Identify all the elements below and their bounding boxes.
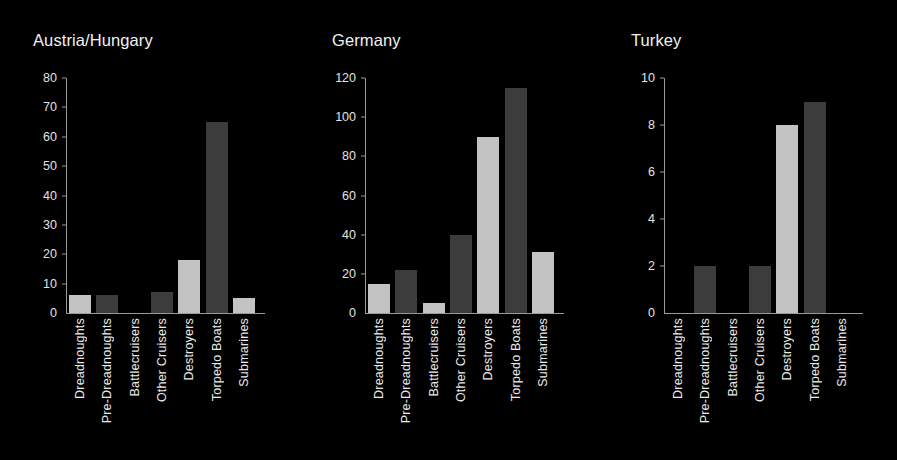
x-axis-tick-label: Battlecruisers: [726, 318, 740, 397]
x-axis-label-slot: Battlecruisers: [420, 318, 447, 446]
x-axis-tick-label: Submarines: [536, 318, 550, 387]
x-axis-tick-label: Battlecruisers: [427, 318, 441, 397]
x-axis-label-slot: Submarines: [530, 318, 557, 446]
x-axis-tick-label: Pre-Dreadnoughts: [698, 318, 712, 423]
x-axis-label-slot: Other Cruisers: [447, 318, 474, 446]
y-axis-tick-label: 0: [349, 306, 365, 320]
bar-series: [365, 78, 557, 313]
x-axis-label-slot: Dreadnoughts: [664, 318, 691, 446]
chart-panel-germany: Germany020406080100120DreadnoughtsPre-Dr…: [299, 0, 598, 460]
plot-area: 020406080100120: [365, 78, 557, 313]
x-axis-label-slot: Dreadnoughts: [66, 318, 93, 446]
x-axis-labels: DreadnoughtsPre-DreadnoughtsBattlecruise…: [365, 316, 557, 446]
x-axis-tick-label: Submarines: [835, 318, 849, 387]
x-axis-tick-label: Torpedo Boats: [808, 318, 822, 401]
x-axis-label-slot: Torpedo Boats: [801, 318, 828, 446]
x-axis-line: [66, 313, 265, 314]
x-axis-tick-label: Pre-Dreadnoughts: [399, 318, 413, 423]
x-axis-labels: DreadnoughtsPre-DreadnoughtsBattlecruise…: [664, 316, 856, 446]
x-axis-line: [664, 313, 863, 314]
bar: [69, 295, 91, 313]
x-axis-tick-label: Destroyers: [481, 318, 495, 380]
x-axis-tick-label: Pre-Dreadnoughts: [100, 318, 114, 423]
bar: [532, 252, 554, 313]
plot-area: 01020304050607080: [66, 78, 258, 313]
x-axis-label-slot: Pre-Dreadnoughts: [691, 318, 718, 446]
x-axis-tick-label: Dreadnoughts: [372, 318, 386, 399]
x-axis-label-slot: Other Cruisers: [148, 318, 175, 446]
y-axis-tick-label: 0: [648, 306, 664, 320]
bar: [776, 125, 798, 313]
bar: [477, 137, 499, 313]
chart-title: Germany: [332, 31, 401, 50]
bar: [96, 295, 118, 313]
bar: [694, 266, 716, 313]
x-axis-label-slot: Destroyers: [774, 318, 801, 446]
x-axis-label-slot: Pre-Dreadnoughts: [93, 318, 120, 446]
x-axis-label-slot: Submarines: [231, 318, 258, 446]
plot-area: 0246810: [664, 78, 856, 313]
x-axis-label-slot: Other Cruisers: [746, 318, 773, 446]
x-axis-label-slot: Dreadnoughts: [365, 318, 392, 446]
chart-title: Turkey: [631, 31, 681, 50]
bar: [450, 235, 472, 313]
x-axis-tick-label: Battlecruisers: [128, 318, 142, 397]
bar-series: [66, 78, 258, 313]
x-axis-label-slot: Battlecruisers: [121, 318, 148, 446]
x-axis-tick-label: Destroyers: [182, 318, 196, 380]
x-axis-tick-label: Other Cruisers: [155, 318, 169, 402]
x-axis-tick-label: Submarines: [237, 318, 251, 387]
x-axis-label-slot: Torpedo Boats: [502, 318, 529, 446]
x-axis-tick-label: Torpedo Boats: [210, 318, 224, 401]
x-axis-line: [365, 313, 564, 314]
y-axis-tick-label: 0: [50, 306, 66, 320]
x-axis-label-slot: Destroyers: [475, 318, 502, 446]
chart-panel-turkey: Turkey0246810DreadnoughtsPre-Dreadnought…: [598, 0, 897, 460]
bar: [423, 303, 445, 313]
x-axis-labels: DreadnoughtsPre-DreadnoughtsBattlecruise…: [66, 316, 258, 446]
x-axis-tick-label: Dreadnoughts: [73, 318, 87, 399]
bar-series: [664, 78, 856, 313]
bar: [505, 88, 527, 313]
charts-row: Austria/Hungary01020304050607080Dreadnou…: [0, 0, 897, 460]
x-axis-tick-label: Other Cruisers: [454, 318, 468, 402]
x-axis-tick-label: Torpedo Boats: [509, 318, 523, 401]
x-axis-label-slot: Pre-Dreadnoughts: [392, 318, 419, 446]
x-axis-tick-label: Destroyers: [780, 318, 794, 380]
bar: [151, 292, 173, 313]
bar: [206, 122, 228, 313]
bar: [804, 102, 826, 314]
bar: [749, 266, 771, 313]
x-axis-label-slot: Destroyers: [176, 318, 203, 446]
bar: [178, 260, 200, 313]
bar: [395, 270, 417, 313]
x-axis-label-slot: Battlecruisers: [719, 318, 746, 446]
chart-title: Austria/Hungary: [33, 31, 153, 50]
x-axis-label-slot: Torpedo Boats: [203, 318, 230, 446]
x-axis-label-slot: Submarines: [829, 318, 856, 446]
x-axis-tick-label: Other Cruisers: [753, 318, 767, 402]
x-axis-tick-label: Dreadnoughts: [671, 318, 685, 399]
bar: [368, 284, 390, 313]
bar: [233, 298, 255, 313]
chart-panel-austria-hungary: Austria/Hungary01020304050607080Dreadnou…: [0, 0, 299, 460]
